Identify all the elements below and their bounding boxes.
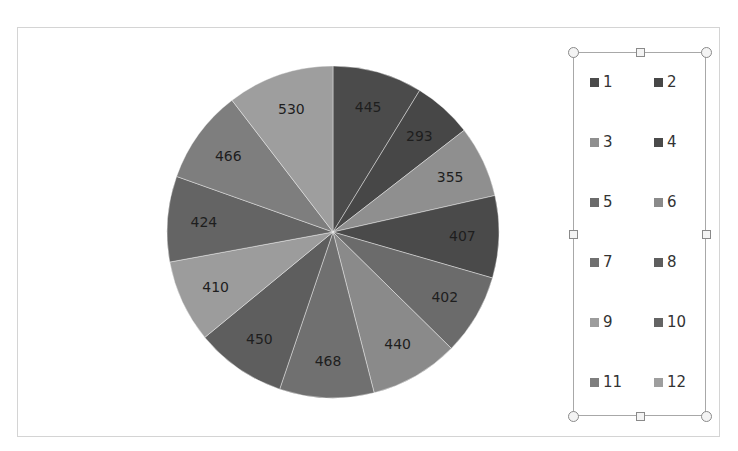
legend-item-9[interactable]: 9: [590, 313, 613, 331]
legend-swatch-icon: [654, 78, 663, 87]
legend-swatch-icon: [590, 378, 599, 387]
legend-swatch-icon: [654, 138, 663, 147]
legend-item-1[interactable]: 1: [590, 73, 613, 91]
legend-swatch-icon: [654, 198, 663, 207]
data-label-9: 410: [202, 279, 229, 295]
data-label-12: 530: [278, 101, 305, 117]
legend-item-7[interactable]: 7: [590, 253, 613, 271]
legend-label: 1: [603, 73, 613, 91]
legend-item-5[interactable]: 5: [590, 193, 613, 211]
chart-area[interactable]: 445293355407402440468450410424466530 123…: [17, 27, 720, 437]
legend-swatch-icon: [654, 258, 663, 267]
legend-label: 12: [667, 373, 686, 391]
legend-swatch-icon: [654, 378, 663, 387]
legend-item-11[interactable]: 11: [590, 373, 622, 391]
data-label-3: 355: [437, 169, 464, 185]
data-label-1: 445: [355, 99, 382, 115]
data-label-8: 450: [246, 331, 273, 347]
data-label-7: 468: [315, 353, 342, 369]
data-label-10: 424: [191, 214, 218, 230]
resize-handle-top-left[interactable]: [568, 47, 579, 58]
legend-label: 2: [667, 73, 677, 91]
legend-item-6[interactable]: 6: [654, 193, 677, 211]
legend-swatch-icon: [654, 318, 663, 327]
legend-item-8[interactable]: 8: [654, 253, 677, 271]
resize-handle-right[interactable]: [702, 230, 711, 239]
legend-item-2[interactable]: 2: [654, 73, 677, 91]
resize-handle-bottom-left[interactable]: [568, 411, 579, 422]
legend-swatch-icon: [590, 198, 599, 207]
legend-swatch-icon: [590, 318, 599, 327]
resize-handle-bottom-right[interactable]: [701, 411, 712, 422]
data-label-6: 440: [384, 336, 411, 352]
legend-swatch-icon: [590, 258, 599, 267]
legend-label: 7: [603, 253, 613, 271]
resize-handle-left[interactable]: [569, 230, 578, 239]
data-label-2: 293: [406, 128, 433, 144]
legend-item-10[interactable]: 10: [654, 313, 686, 331]
legend-label: 5: [603, 193, 613, 211]
legend-label: 4: [667, 133, 677, 151]
data-label-5: 402: [431, 289, 458, 305]
data-label-4: 407: [449, 228, 476, 244]
legend[interactable]: 123456789101112: [573, 52, 706, 416]
legend-swatch-icon: [590, 78, 599, 87]
legend-swatch-icon: [590, 138, 599, 147]
legend-item-4[interactable]: 4: [654, 133, 677, 151]
legend-label: 3: [603, 133, 613, 151]
legend-label: 10: [667, 313, 686, 331]
legend-label: 8: [667, 253, 677, 271]
resize-handle-top[interactable]: [636, 48, 645, 57]
legend-item-12[interactable]: 12: [654, 373, 686, 391]
legend-label: 11: [603, 373, 622, 391]
resize-handle-top-right[interactable]: [701, 47, 712, 58]
resize-handle-bottom[interactable]: [636, 412, 645, 421]
legend-label: 6: [667, 193, 677, 211]
legend-item-3[interactable]: 3: [590, 133, 613, 151]
data-label-11: 466: [215, 148, 242, 164]
legend-label: 9: [603, 313, 613, 331]
